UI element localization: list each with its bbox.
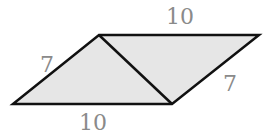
- bottom-side-label: 10: [79, 110, 107, 135]
- parallelogram-diagram: 10 7 7 10: [0, 0, 268, 136]
- top-side-label: 10: [166, 4, 194, 29]
- right-side-label: 7: [223, 71, 237, 96]
- left-side-label: 7: [40, 52, 54, 77]
